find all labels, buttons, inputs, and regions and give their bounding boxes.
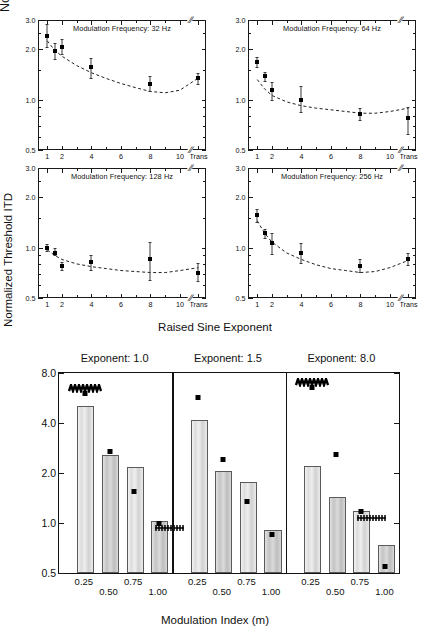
bar-y-tick <box>59 573 64 574</box>
x-tick-label: 2 <box>60 300 64 309</box>
error-bar-cap <box>149 76 152 77</box>
error-bar-cap <box>359 259 362 260</box>
x-tick-label: 8 <box>148 152 152 161</box>
y-tick-label: 0.5 <box>26 146 36 155</box>
y-tick-label: 1.0 <box>236 243 246 252</box>
fit-curve <box>248 20 416 150</box>
bar-x-tick-label: 0.75 <box>124 576 143 587</box>
error-bar-cap <box>359 120 362 121</box>
bar <box>329 497 346 573</box>
y-tick <box>38 150 43 151</box>
x-tick-label: 6 <box>119 152 123 161</box>
error-bar-cap <box>263 72 266 73</box>
error-bar-cap <box>197 281 200 282</box>
error-bar-cap <box>46 47 49 48</box>
bar-y-tick <box>59 473 64 474</box>
x-tick-label: 1 <box>255 300 259 309</box>
error-bar-cap <box>300 86 303 87</box>
error-bar-cap <box>359 272 362 273</box>
data-point <box>406 116 410 120</box>
error-bar-cap <box>256 67 259 68</box>
bar-y-tick-label: 1.0 <box>41 517 56 529</box>
error-bar-cap <box>90 255 93 256</box>
y-tick-label: 2.0 <box>236 45 246 54</box>
y-tick-label: 0.5 <box>236 146 246 155</box>
error-bar-cap <box>407 107 410 108</box>
error-bar-cap <box>60 39 63 40</box>
error-bar-cap <box>149 280 152 281</box>
y-tick-label: 3.0 <box>26 164 36 173</box>
bar-y-tick-label: 0.5 <box>41 567 56 579</box>
bar-x-tick-label: 1.00 <box>262 586 281 597</box>
overlay-data-point <box>220 457 225 462</box>
overlay-data-point <box>245 499 250 504</box>
bar <box>378 545 395 573</box>
data-point <box>148 257 152 261</box>
x-tick-label: 10 <box>176 152 184 161</box>
y-tick-label: 1.0 <box>26 243 36 252</box>
error-bar-cap <box>407 134 410 135</box>
bar-x-tick-label: 0.25 <box>301 576 320 587</box>
data-point <box>299 98 303 102</box>
error-bar-cap <box>407 265 410 266</box>
off-scale-indicator-icon <box>357 508 387 526</box>
x-tick-label: 8 <box>358 152 362 161</box>
offscale-tick-glyph <box>357 514 387 522</box>
y-tick-label: 2.0 <box>26 45 36 54</box>
x-tick-label: 4 <box>299 152 303 161</box>
x-tick-label: 2 <box>270 300 274 309</box>
error-bar-cap <box>60 270 63 271</box>
off-scale-indicator-icon <box>68 379 102 397</box>
bar-y-tick <box>394 373 399 374</box>
overlay-data-point <box>334 452 339 457</box>
error-bar-cap <box>90 58 93 59</box>
x-tick-label: 6 <box>329 300 333 309</box>
error-bar-cap <box>60 54 63 55</box>
data-point <box>89 260 93 264</box>
overlay-data-point <box>107 449 112 454</box>
offscale-arrow-glyph <box>68 384 102 393</box>
data-point <box>53 251 57 255</box>
top-figure-scatter-panels: Normalized Threshold ITD Raised Sine Exp… <box>0 8 430 338</box>
data-point <box>148 82 152 86</box>
bar-group-title: Exponent: 1.0 <box>81 352 149 364</box>
scatter-panel-2: Modulation Frequency: 64 Hz3.02.01.00.51… <box>248 20 416 150</box>
bottom-figure-y-axis-label: Normalized Threshold ITD <box>2 160 14 360</box>
off-scale-indicator-icon <box>155 518 185 536</box>
bar <box>240 482 257 573</box>
overlay-data-point <box>383 564 388 569</box>
y-tick-label: 3.0 <box>236 16 246 25</box>
bottom-figure-bar-chart: Normalized Threshold ITD Modulation Inde… <box>0 352 430 635</box>
error-bar-cap <box>270 233 273 234</box>
scatter-panel-1: Modulation Frequency: 32 Hz3.02.01.00.51… <box>38 20 206 150</box>
bar-y-tick <box>394 573 399 574</box>
x-tick-label: 10 <box>386 152 394 161</box>
x-tick-label: 8 <box>358 300 362 309</box>
x-tick-label: 6 <box>119 300 123 309</box>
x-tick-label: 6 <box>329 152 333 161</box>
error-bar-cap <box>256 57 259 58</box>
bar-y-tick <box>59 423 64 424</box>
top-figure-y-axis-label: Normalized Threshold ITD <box>0 0 12 48</box>
x-tick-label: 10 <box>386 300 394 309</box>
bar-x-tick-label: 0.75 <box>351 576 370 587</box>
error-bar <box>150 242 151 280</box>
data-point <box>406 257 410 261</box>
error-bar-cap <box>197 84 200 85</box>
top-figure-x-axis-label: Raised Sine Exponent <box>0 321 430 333</box>
x-tick-label: 4 <box>89 300 93 309</box>
data-point <box>196 76 200 80</box>
overlay-data-point <box>132 489 137 494</box>
y-tick-label: 0.5 <box>26 294 36 303</box>
x-tick-label: Trans <box>189 152 207 161</box>
x-tick-label: 2 <box>270 152 274 161</box>
data-point <box>263 74 267 78</box>
error-bar-cap <box>53 248 56 249</box>
off-scale-indicator-icon <box>295 373 329 391</box>
error-bar-cap <box>300 263 303 264</box>
scatter-panel-3: Modulation Frequency: 128 Hz3.02.01.00.5… <box>38 168 206 298</box>
x-tick-label: 1 <box>45 300 49 309</box>
bar-x-tick-label: 0.25 <box>188 576 207 587</box>
error-bar-cap <box>256 209 259 210</box>
y-tick <box>248 298 253 299</box>
